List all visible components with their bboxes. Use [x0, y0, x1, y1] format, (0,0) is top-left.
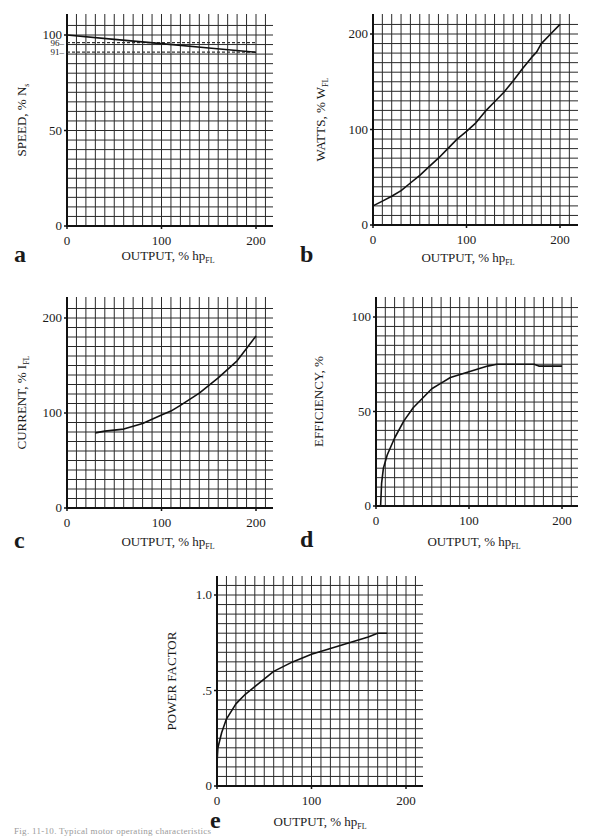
- grid-lines: [217, 576, 423, 786]
- panel-letter: c: [14, 527, 25, 553]
- y-tick-label: 100: [43, 405, 63, 420]
- y-tick-label: 0: [206, 778, 213, 793]
- x-tick-label: 0: [373, 513, 380, 528]
- reference-label: 91–: [51, 47, 65, 57]
- grid-lines: [67, 14, 273, 226]
- x-tick-label: 0: [64, 233, 71, 248]
- y-tick-label: 50: [358, 404, 371, 419]
- x-tick-label: 0: [64, 515, 71, 530]
- y-tick-label: 200: [43, 310, 63, 325]
- x-axis-title: OUTPUT, % hpFL: [427, 534, 520, 551]
- x-tick-label: 200: [552, 513, 572, 528]
- grid-lines: [376, 297, 578, 506]
- chart-panel-e: 01002000.51.0eOUTPUT, % hpFLPOWER FACTOR: [164, 576, 423, 833]
- x-axis-title: OUTPUT, % hpFL: [121, 248, 214, 265]
- x-tick-label: 100: [459, 513, 479, 528]
- y-axis-title: POWER FACTOR: [164, 631, 179, 730]
- y-tick-label: .5: [202, 683, 212, 698]
- grid-lines: [373, 14, 578, 225]
- x-tick-label: 200: [246, 233, 266, 248]
- x-tick-label: 200: [550, 232, 570, 247]
- panel-letter: e: [210, 807, 221, 833]
- x-tick-label: 100: [152, 515, 172, 530]
- y-axis-title: EFFICIENCY, %: [311, 356, 326, 447]
- y-tick-label: 0: [362, 217, 369, 232]
- y-tick-label: 0: [365, 498, 372, 513]
- grid-lines: [67, 297, 273, 508]
- x-axis-title: OUTPUT, % hpFL: [273, 814, 366, 831]
- figure-canvas: 010020005010096–91–aOUTPUT, % hpFLSPEED,…: [0, 0, 589, 838]
- x-tick-label: 0: [214, 793, 221, 808]
- chart-panel-d: 0100200050100dOUTPUT, % hpFLEFFICIENCY, …: [300, 297, 578, 552]
- panel-letter: d: [300, 526, 314, 552]
- chart-panel-a: 010020005010096–91–aOUTPUT, % hpFLSPEED,…: [14, 14, 273, 267]
- x-tick-label: 100: [457, 232, 477, 247]
- y-tick-label: 0: [56, 218, 63, 233]
- y-tick-label: 200: [349, 26, 369, 41]
- x-axis-title: OUTPUT, % hpFL: [121, 534, 214, 551]
- data-curve: [381, 364, 562, 506]
- x-tick-label: 100: [152, 233, 172, 248]
- panel-letter: b: [300, 241, 313, 267]
- x-tick-label: 100: [302, 793, 322, 808]
- y-tick-label: 100: [352, 309, 372, 324]
- y-axis-title: SPEED, % Ns: [14, 84, 31, 157]
- figure-caption: Fig. 11-10. Typical motor operating char…: [14, 826, 211, 836]
- x-tick-label: 0: [370, 232, 377, 247]
- chart-panel-b: 01002000100200bOUTPUT, % hpFLWATTS, % WF…: [300, 14, 578, 267]
- x-tick-label: 200: [246, 515, 266, 530]
- y-tick-label: 1.0: [196, 587, 212, 602]
- y-axis-title: CURRENT, % IFL: [14, 355, 31, 449]
- y-axis-title: WATTS, % WFL: [313, 77, 330, 161]
- x-tick-label: 200: [396, 793, 416, 808]
- x-axis-title: OUTPUT, % hpFL: [421, 250, 514, 267]
- panel-letter: a: [14, 241, 26, 267]
- reference-label: 96–: [51, 38, 65, 48]
- y-tick-label: 0: [56, 500, 63, 515]
- chart-panel-c: 01002000100200cOUTPUT, % hpFLCURRENT, % …: [14, 297, 273, 553]
- y-tick-label: 50: [49, 123, 62, 138]
- y-tick-label: 100: [349, 122, 369, 137]
